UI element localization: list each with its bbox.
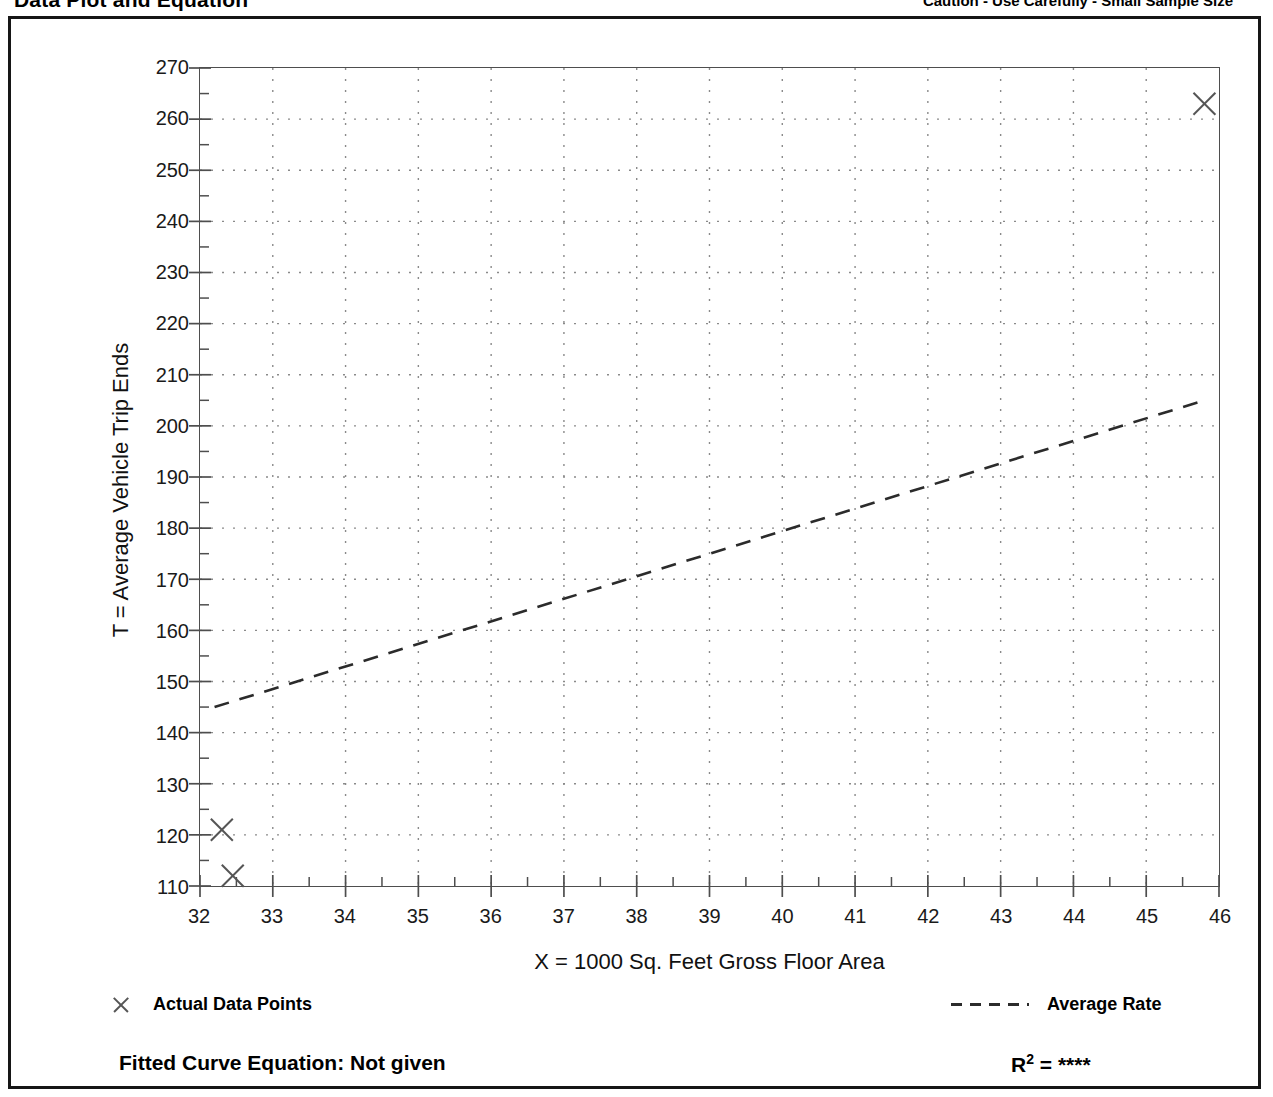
x-axis-tick-label: 37 — [553, 905, 575, 928]
y-axis-tick-label: 200 — [156, 414, 189, 437]
legend-entry-data-points: Actual Data Points — [111, 994, 312, 1015]
y-axis-tick-label: 220 — [156, 312, 189, 335]
chart-legend: Actual Data Points Average Rate — [11, 994, 1258, 1028]
plot-area — [199, 67, 1220, 887]
y-axis-tick-label: 190 — [156, 466, 189, 489]
x-axis-tick-label: 36 — [480, 905, 502, 928]
x-axis-tick-label: 45 — [1136, 905, 1158, 928]
x-axis-tick-label: 32 — [188, 905, 210, 928]
y-axis-tick-label: 160 — [156, 619, 189, 642]
legend-entry-average-rate: Average Rate — [951, 994, 1161, 1015]
y-axis-tick-labels: 1101201301401501601701801902002102202302… — [129, 67, 189, 887]
page-header: Data Plot and Equation Caution - Use Car… — [0, 0, 1273, 14]
r-squared-value: R2 = **** — [1011, 1051, 1091, 1077]
fitted-curve-equation: Fitted Curve Equation: Not given — [119, 1051, 446, 1075]
y-axis-tick-label: 170 — [156, 568, 189, 591]
x-axis-tick-label: 33 — [261, 905, 283, 928]
page-title: Data Plot and Equation — [14, 0, 248, 12]
x-axis-tick-label: 38 — [625, 905, 647, 928]
y-axis-tick-label: 230 — [156, 261, 189, 284]
legend-label-data-points: Actual Data Points — [153, 994, 312, 1015]
data-point-marker — [211, 819, 233, 841]
y-axis-tick-label: 210 — [156, 363, 189, 386]
y-axis-tick-label: 240 — [156, 209, 189, 232]
y-axis-tick-label: 260 — [156, 107, 189, 130]
average-rate-line — [215, 400, 1205, 707]
y-axis-tick-label: 120 — [156, 824, 189, 847]
y-axis-tick-label: 270 — [156, 56, 189, 79]
legend-label-average-rate: Average Rate — [1047, 994, 1161, 1015]
x-axis-tick-label: 44 — [1063, 905, 1085, 928]
r2-equals: = — [1034, 1053, 1058, 1076]
x-axis-tick-label: 46 — [1209, 905, 1231, 928]
x-axis-tick-label: 43 — [990, 905, 1012, 928]
figure-area: 1101201301401501601701801902002102202302… — [11, 19, 1258, 1086]
dashed-line-icon — [951, 1003, 1029, 1006]
y-axis-tick-label: 110 — [157, 876, 189, 899]
x-axis-tick-label: 40 — [771, 905, 793, 928]
r2-exponent: 2 — [1026, 1051, 1034, 1067]
chart-footer: Fitted Curve Equation: Not given R2 = **… — [11, 1051, 1258, 1091]
r2-stars: **** — [1058, 1053, 1091, 1076]
y-axis-tick-label: 140 — [156, 722, 189, 745]
y-axis-tick-label: 250 — [156, 158, 189, 181]
x-axis-tick-label: 41 — [844, 905, 866, 928]
y-axis-tick-label: 150 — [156, 671, 189, 694]
x-axis-title: X = 1000 Sq. Feet Gross Floor Area — [199, 949, 1220, 975]
caution-note: Caution - Use Carefully - Small Sample S… — [923, 0, 1259, 9]
x-axis-tick-label: 39 — [698, 905, 720, 928]
data-layer — [200, 68, 1219, 886]
chart-frame: 1101201301401501601701801902002102202302… — [8, 16, 1261, 1089]
x-axis-tick-label: 35 — [407, 905, 429, 928]
y-axis-tick-label: 180 — [156, 517, 189, 540]
data-point-marker — [222, 865, 244, 887]
data-point-marker — [1193, 93, 1215, 115]
x-marker-icon — [111, 995, 131, 1015]
x-axis-tick-labels: 323334353637383940414243444546 — [199, 905, 1220, 933]
y-axis-title: T = Average Vehicle Trip Ends — [108, 80, 134, 900]
x-axis-tick-label: 42 — [917, 905, 939, 928]
y-axis-tick-label: 130 — [156, 773, 189, 796]
r2-symbol: R — [1011, 1053, 1026, 1076]
x-axis-tick-label: 34 — [334, 905, 356, 928]
